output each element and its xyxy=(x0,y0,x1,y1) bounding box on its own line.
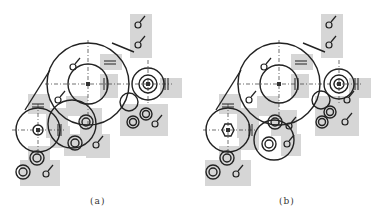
mechanism-diagram-b xyxy=(189,0,377,217)
panel-a: (a) xyxy=(0,0,188,217)
caption-a: (a) xyxy=(90,196,105,206)
mechanism-diagram-a xyxy=(0,0,188,217)
panel-b: (b) xyxy=(189,0,377,217)
caption-b: (b) xyxy=(279,196,295,206)
